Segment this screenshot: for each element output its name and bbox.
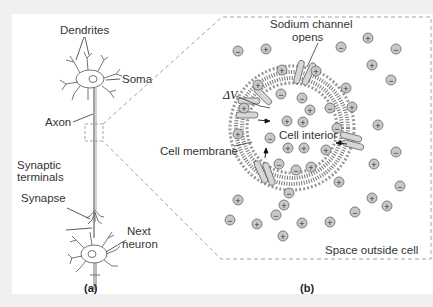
label-synaptic-terminals-1: Synaptic xyxy=(17,159,61,171)
svg-text:−: − xyxy=(293,166,298,176)
svg-text:+: + xyxy=(308,163,313,173)
svg-text:+: + xyxy=(241,104,246,114)
ion-positive: + xyxy=(233,129,243,140)
label-synapse: Synapse xyxy=(21,192,66,204)
label-space-outside-cell: Space outside cell xyxy=(325,244,418,256)
svg-text:−: − xyxy=(388,76,393,86)
ion-positive: + xyxy=(306,162,316,173)
label-cell-membrane: Cell membrane xyxy=(160,145,238,157)
label-soma: Soma xyxy=(122,73,153,85)
ion-positive: + xyxy=(239,103,249,114)
svg-text:+: + xyxy=(280,232,285,242)
ion-negative: − xyxy=(233,46,243,57)
ion-positive: + xyxy=(297,218,307,229)
ion-positive: + xyxy=(283,143,293,154)
svg-text:+: + xyxy=(263,45,268,55)
neuron-diagram: Dendrites Soma Axon Synaptic terminals S… xyxy=(0,0,433,307)
svg-text:+: + xyxy=(235,130,240,140)
ion-positive: + xyxy=(299,143,309,154)
ion-negative: − xyxy=(391,44,401,55)
svg-text:−: − xyxy=(278,90,283,100)
ion-positive: + xyxy=(278,231,288,242)
svg-text:+: + xyxy=(235,196,240,206)
svg-text:−: − xyxy=(227,216,232,226)
svg-text:+: + xyxy=(285,144,290,154)
svg-text:+: + xyxy=(284,117,289,127)
label-next-neuron-2: neuron xyxy=(122,238,158,250)
svg-text:−: − xyxy=(299,94,304,104)
svg-text:−: − xyxy=(267,134,272,144)
next-neuron-soma xyxy=(81,245,107,263)
svg-text:−: − xyxy=(338,43,343,53)
label-axon: Axon xyxy=(45,116,71,128)
ion-negative: − xyxy=(336,42,346,53)
svg-text:+: + xyxy=(371,160,376,170)
svg-text:+: + xyxy=(384,202,389,212)
ion-negative: − xyxy=(276,89,286,100)
ion-positive: + xyxy=(373,120,383,131)
label-delta-v: ΔV xyxy=(222,88,239,102)
ion-negative: − xyxy=(271,210,281,221)
svg-text:+: + xyxy=(254,220,259,230)
ion-positive: + xyxy=(369,159,379,170)
svg-text:−: − xyxy=(286,189,291,199)
ion-positive: + xyxy=(363,33,373,44)
ion-positive: + xyxy=(341,83,351,94)
ion-positive: + xyxy=(233,195,243,206)
svg-text:−: − xyxy=(235,47,240,57)
svg-text:+: + xyxy=(301,144,306,154)
svg-text:+: + xyxy=(307,106,312,116)
ion-positive: + xyxy=(382,201,392,212)
label-next-neuron-1: Next xyxy=(127,225,151,237)
label-sodium-channel-2: opens xyxy=(292,31,324,43)
ion-negative: − xyxy=(297,93,307,104)
panel-b-tag: (b) xyxy=(300,282,314,294)
svg-text:−: − xyxy=(393,45,398,55)
svg-text:+: + xyxy=(343,84,348,94)
svg-text:+: + xyxy=(375,121,380,131)
ion-positive: + xyxy=(253,80,263,91)
svg-text:+: + xyxy=(327,218,332,228)
label-dendrites: Dendrites xyxy=(60,24,109,36)
svg-text:+: + xyxy=(369,61,374,71)
ion-positive: + xyxy=(277,65,287,76)
ion-positive: + xyxy=(367,193,377,204)
ion-positive: + xyxy=(279,200,289,211)
svg-text:−: − xyxy=(352,208,357,218)
svg-text:+: + xyxy=(299,219,304,229)
ion-negative: − xyxy=(284,188,294,199)
panel-a-tag: (a) xyxy=(84,282,98,294)
svg-text:+: + xyxy=(336,178,341,188)
svg-text:+: + xyxy=(255,81,260,91)
svg-text:+: + xyxy=(369,194,374,204)
svg-text:−: − xyxy=(393,148,398,158)
label-synaptic-terminals-2: terminals xyxy=(17,171,64,183)
ion-negative: − xyxy=(350,207,360,218)
ion-positive: + xyxy=(347,102,357,113)
ion-positive: + xyxy=(298,117,308,128)
ion-positive: + xyxy=(367,60,377,71)
svg-text:+: + xyxy=(279,66,284,76)
ion-positive: + xyxy=(305,105,315,116)
ion-negative: − xyxy=(225,215,235,226)
svg-text:−: − xyxy=(273,211,278,221)
ion-negative: − xyxy=(291,165,301,176)
label-sodium-channel-1: Sodium channel xyxy=(270,18,352,30)
ion-negative: − xyxy=(265,133,275,144)
svg-text:−: − xyxy=(397,182,402,192)
svg-text:+: + xyxy=(300,118,305,128)
svg-text:+: + xyxy=(365,34,370,44)
ion-negative: − xyxy=(325,103,335,114)
ion-positive: + xyxy=(311,66,321,77)
ion-positive: + xyxy=(325,217,335,228)
ion-negative: − xyxy=(391,147,401,158)
svg-text:+: + xyxy=(349,103,354,113)
ion-negative: − xyxy=(274,159,284,170)
ion-positive: + xyxy=(261,44,271,55)
ion-negative: − xyxy=(386,75,396,86)
svg-text:+: + xyxy=(281,201,286,211)
ion-negative: − xyxy=(395,181,405,192)
ion-positive: + xyxy=(252,219,262,230)
ion-positive: + xyxy=(334,177,344,188)
ion-positive: + xyxy=(321,145,331,156)
